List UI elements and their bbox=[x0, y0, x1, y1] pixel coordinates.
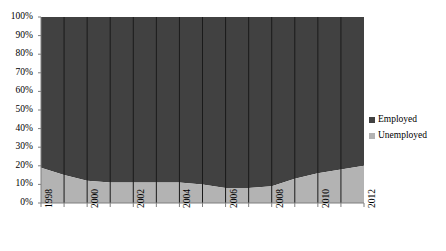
list-item: Unemployed bbox=[369, 128, 445, 144]
x-axis-tick-label: 2006 bbox=[230, 189, 240, 208]
x-axis-tick-label: 2000 bbox=[91, 189, 101, 208]
x-axis-tick-label: 2010 bbox=[322, 189, 332, 208]
legend-item-label: Unemployed bbox=[378, 131, 427, 141]
list-item: Employed bbox=[369, 112, 445, 128]
x-axis-tick-label: 2002 bbox=[137, 189, 147, 208]
square-swatch-icon bbox=[369, 117, 375, 123]
x-axis-tick-label: 2004 bbox=[183, 189, 193, 208]
square-swatch-icon bbox=[369, 133, 375, 139]
x-axis-tick-label: 2012 bbox=[368, 189, 378, 208]
x-axis-tick-label: 2008 bbox=[276, 189, 286, 208]
legend-item-label: Employed bbox=[378, 115, 417, 125]
x-axis-tick-label: 1998 bbox=[45, 189, 55, 208]
stacked-area-chart: 100%90%80%70%60%50%40%30%20%10%0% 199820… bbox=[0, 0, 446, 251]
chart-legend: Employed Unemployed bbox=[369, 112, 445, 144]
